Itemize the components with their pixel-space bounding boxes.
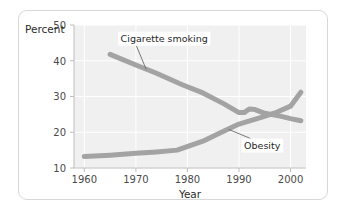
series-label-cigarette-smoking: Cigarette smoking bbox=[121, 33, 208, 44]
y-axis-title: Percent bbox=[25, 23, 65, 35]
x-tick-label-1990: 1990 bbox=[226, 174, 251, 185]
x-axis-title: Year bbox=[178, 188, 202, 200]
line-chart: 50 40 30 20 10 1960 1970 1980 1990 2000 … bbox=[19, 11, 329, 201]
figure-card: 50 40 30 20 10 1960 1970 1980 1990 2000 … bbox=[18, 10, 328, 200]
series-label-obesity: Obesity bbox=[244, 140, 281, 151]
x-tick-label-1980: 1980 bbox=[175, 174, 200, 185]
y-tick-label-30: 30 bbox=[53, 91, 66, 102]
x-tick-label-2000: 2000 bbox=[278, 174, 303, 185]
x-tick-marks bbox=[84, 168, 290, 172]
y-tick-label-20: 20 bbox=[53, 127, 66, 138]
y-tick-label-10: 10 bbox=[53, 163, 66, 174]
x-tick-label-1970: 1970 bbox=[123, 174, 148, 185]
y-tick-marks bbox=[70, 25, 74, 168]
x-tick-label-1960: 1960 bbox=[72, 174, 97, 185]
y-tick-label-40: 40 bbox=[53, 56, 66, 67]
